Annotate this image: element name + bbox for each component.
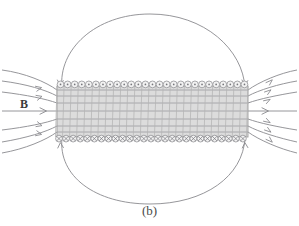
coil-dot-marker-icon [130, 84, 132, 86]
arrow-right-1-icon [266, 80, 272, 85]
coil-dot-marker-icon [208, 84, 210, 86]
right-line-4 [248, 119, 297, 130]
coil-dot-marker-icon [237, 84, 239, 86]
arrow-right-3-icon [264, 99, 271, 103]
coil-dot-marker-icon [138, 84, 140, 86]
coil-dot-marker-icon [159, 84, 161, 86]
coil-dot-marker-icon [229, 84, 231, 86]
coil-dot-marker-icon [187, 84, 189, 86]
outer-loop-bottom-1 [62, 138, 245, 204]
left-line-5 [2, 126, 57, 142]
coil-dot-marker-icon [116, 84, 118, 86]
coil-dot-marker-icon [88, 84, 90, 86]
figure-container: B (b) [0, 0, 299, 226]
coil-dot-marker-icon [67, 84, 69, 86]
arrow-right-4-icon [264, 118, 271, 122]
left-line-2 [2, 81, 57, 96]
solenoid-field-diagram [0, 0, 299, 226]
coil-dot-marker-icon [222, 84, 224, 86]
left-line-6 [2, 132, 57, 153]
arrow-right-5-icon [265, 127, 272, 132]
coil-dot-marker-icon [215, 84, 217, 86]
coil-dot-marker-icon [194, 84, 196, 86]
right-line-2 [248, 81, 297, 96]
coil-dot-marker-icon [152, 84, 154, 86]
left-line-3 [2, 92, 57, 103]
arrow-right-6-icon [266, 137, 272, 142]
right-field-lines [248, 70, 297, 153]
field-label-b: B [20, 98, 28, 110]
left-line-1 [2, 70, 57, 90]
coil-dot-marker-icon [244, 84, 246, 86]
left-field-lines [2, 70, 57, 153]
right-line-3 [248, 92, 297, 103]
arrow-right-2-icon [265, 90, 272, 95]
coil-dot-marker-icon [123, 84, 125, 86]
coil-dot-marker-icon [60, 84, 62, 86]
left-line-4 [2, 119, 57, 130]
coil-dot-marker-icon [95, 84, 97, 86]
coil-dot-marker-icon [109, 84, 111, 86]
coil-dot-marker-icon [145, 84, 147, 86]
coil-dot-marker-icon [74, 84, 76, 86]
coil-dot-marker-icon [180, 84, 182, 86]
coil-dot-marker-icon [201, 84, 203, 86]
coil-dot-marker-icon [81, 84, 83, 86]
arrow-bottom-right-icon [242, 143, 248, 148]
figure-caption: (b) [0, 203, 299, 219]
coil-dot-marker-icon [173, 84, 175, 86]
arrow-bottom-left-icon [58, 143, 64, 148]
coil-dot-marker-icon [166, 84, 168, 86]
outer-loop-top-1 [62, 14, 245, 88]
coil-dot-marker-icon [102, 84, 104, 86]
